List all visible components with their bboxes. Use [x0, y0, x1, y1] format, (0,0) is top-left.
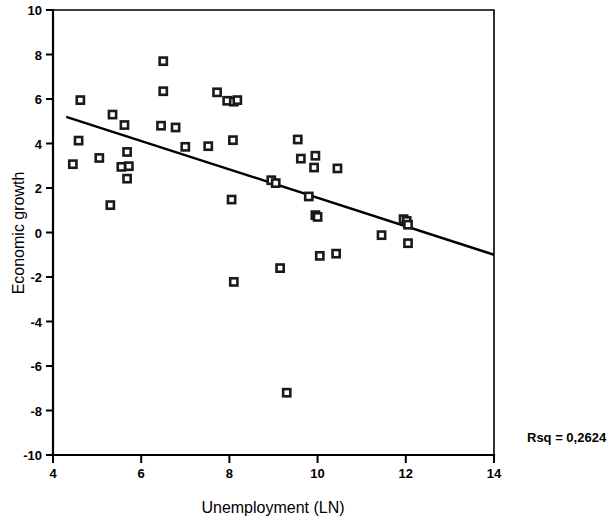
data-point [310, 164, 317, 171]
data-point [333, 250, 340, 257]
y-tick-label-neg6: -6 [30, 359, 42, 374]
y-tick-label-8: 8 [35, 48, 42, 63]
data-point [234, 97, 241, 104]
data-point [157, 122, 164, 129]
y-axis-title: Economic growth [10, 172, 27, 295]
data-point [107, 202, 114, 209]
data-point [230, 278, 237, 285]
x-tick-label-6: 6 [138, 466, 145, 481]
y-tick-label-6: 6 [35, 92, 42, 107]
x-axis-title: Unemployment (LN) [201, 499, 344, 516]
data-point [123, 148, 130, 155]
y-axis-ticks: 10 8 6 4 2 0 -2 -4 -6 -8 -10 [23, 3, 53, 463]
data-point [283, 389, 290, 396]
data-point [228, 196, 235, 203]
data-point [213, 89, 220, 96]
data-point [118, 163, 125, 170]
data-point [305, 193, 312, 200]
data-point [205, 143, 212, 150]
y-tick-label-2: 2 [35, 181, 42, 196]
x-tick-label-14: 14 [487, 466, 502, 481]
data-point [294, 136, 301, 143]
scatter-plot-figure: 10 8 6 4 2 0 -2 -4 -6 -8 -10 4 [0, 0, 615, 527]
x-tick-label-4: 4 [49, 466, 57, 481]
data-point [314, 213, 321, 220]
data-point [272, 180, 279, 187]
y-tick-label-10: 10 [28, 3, 42, 18]
data-point [404, 240, 411, 247]
x-tick-label-10: 10 [310, 466, 324, 481]
data-point [121, 121, 128, 128]
y-tick-label-neg10: -10 [23, 448, 42, 463]
y-tick-label-neg4: -4 [30, 315, 42, 330]
rsq-annotation: Rsq = 0,2624 [527, 430, 607, 445]
data-point [404, 221, 411, 228]
data-point [334, 165, 341, 172]
data-point [378, 232, 385, 239]
data-point [160, 88, 167, 95]
data-point [316, 252, 323, 259]
data-point [160, 58, 167, 65]
data-point [125, 163, 132, 170]
data-point [69, 161, 76, 168]
chart-canvas: 10 8 6 4 2 0 -2 -4 -6 -8 -10 4 [0, 0, 615, 527]
data-point [297, 155, 304, 162]
data-point [172, 124, 179, 131]
y-tick-label-neg8: -8 [30, 404, 42, 419]
data-point [182, 143, 189, 150]
data-point [96, 154, 103, 161]
y-tick-label-0: 0 [35, 226, 42, 241]
data-point [77, 97, 84, 104]
data-points-group [69, 58, 411, 397]
data-point [277, 265, 284, 272]
data-point [229, 137, 236, 144]
data-point [123, 175, 130, 182]
data-point [75, 137, 82, 144]
y-tick-label-4: 4 [35, 137, 43, 152]
x-axis-ticks: 4 6 8 10 12 14 [49, 455, 502, 481]
x-tick-label-8: 8 [226, 466, 233, 481]
data-point [109, 111, 116, 118]
x-tick-label-12: 12 [399, 466, 413, 481]
y-tick-label-neg2: -2 [30, 270, 42, 285]
data-point [312, 152, 319, 159]
